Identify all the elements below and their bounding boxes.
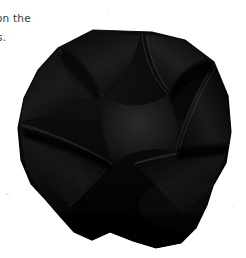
scan-speck [232,206,234,208]
body-text-line-2: s. [0,31,6,43]
scan-speck [6,193,9,195]
scanned-page: on the s. [0,0,246,258]
scan-speck [108,12,110,14]
body-text-line-1: on the [0,12,31,24]
body-text-column: on the s. [0,0,60,60]
